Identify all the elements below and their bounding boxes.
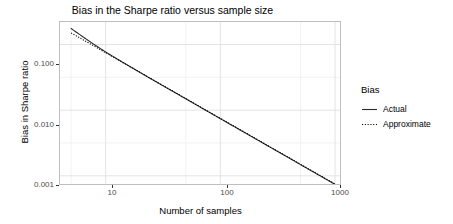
y-tick-label-1: 0.010: [30, 120, 54, 130]
y-tick-label-0: 0.100: [30, 59, 54, 69]
legend: Bias Actual Approximate: [361, 84, 453, 132]
legend-item-approximate[interactable]: Approximate: [361, 117, 453, 132]
chart-figure: Bias in the Sharpe ratio versus sample s…: [0, 0, 453, 224]
legend-label-actual: Actual: [378, 104, 407, 115]
major-gridlines: [60, 22, 341, 185]
x-tick-label-0: 10: [92, 188, 132, 198]
series-line-actual: [71, 29, 335, 185]
plot-area: [60, 22, 341, 185]
x-axis-title: Number of samples: [59, 205, 342, 217]
legend-label-approximate: Approximate: [378, 119, 431, 130]
legend-key-dotted-line-icon: [361, 117, 378, 132]
x-tick-label-2: 1000: [320, 188, 360, 198]
legend-title: Bias: [361, 84, 453, 96]
y-tick-label-2: 0.001: [30, 180, 54, 190]
x-tick-label-1: 100: [207, 188, 247, 198]
x-tick-mark-1: [227, 185, 228, 188]
y-axis-title: Bias in Sharpe ratio: [19, 22, 31, 182]
legend-key-solid-line-icon: [361, 102, 378, 117]
x-tick-mark-2: [340, 185, 341, 188]
x-tick-mark-0: [112, 185, 113, 188]
plot-panel: [59, 21, 341, 185]
y-tick-mark-2: [56, 185, 59, 186]
legend-item-actual[interactable]: Actual: [361, 102, 453, 117]
chart-title: Bias in the Sharpe ratio versus sample s…: [0, 4, 345, 17]
minor-gridlines: [60, 22, 341, 185]
